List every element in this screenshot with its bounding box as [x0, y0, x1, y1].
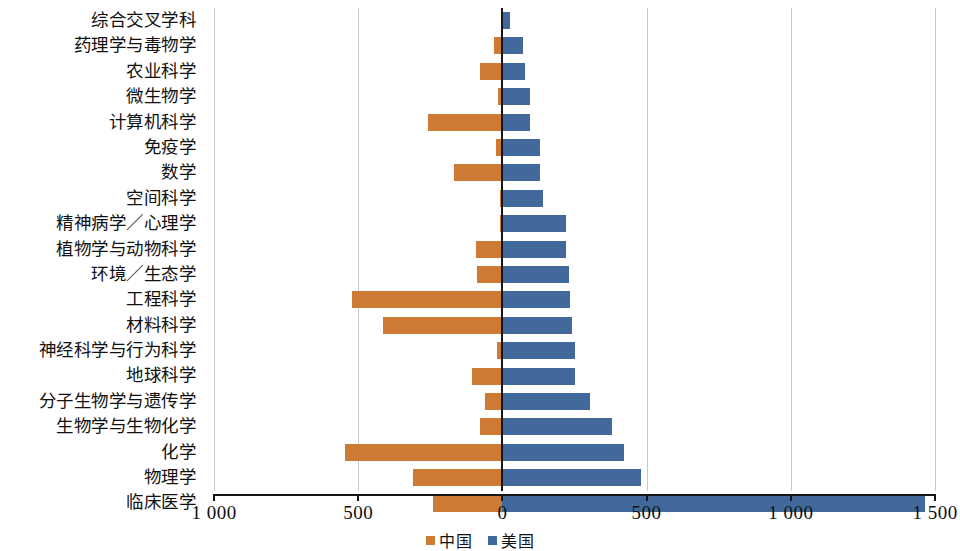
bar-china — [383, 317, 503, 334]
category-label: 空间科学 — [0, 186, 196, 211]
bar-row — [214, 338, 935, 363]
bar-row — [214, 262, 935, 287]
bar-usa — [502, 291, 569, 308]
bar-china — [433, 495, 502, 512]
bar-row — [214, 59, 935, 84]
category-label: 精神病学／心理学 — [0, 211, 196, 236]
category-label: 神经科学与行为科学 — [0, 338, 196, 363]
bar-usa — [502, 368, 575, 385]
legend-swatch-icon — [488, 536, 497, 545]
plot-area — [214, 8, 935, 491]
category-label-column: 综合交叉学科药理学与毒物学农业科学微生物学计算机科学免疫学数学空间科学精神病学／… — [0, 8, 196, 516]
bar-row — [214, 186, 935, 211]
bar-china — [485, 393, 502, 410]
bar-china — [472, 368, 502, 385]
bar-china — [480, 63, 502, 80]
bar-usa — [502, 88, 529, 105]
category-label: 地球科学 — [0, 363, 196, 388]
bar-usa — [502, 164, 539, 181]
x-axis-tick-label: 0 — [497, 502, 507, 524]
bar-row — [214, 211, 935, 236]
x-axis-tick-label: 1 500 — [912, 502, 957, 524]
bar-china — [428, 114, 502, 131]
x-axis-tick — [790, 494, 792, 501]
bar-row — [214, 110, 935, 135]
bar-usa — [502, 317, 571, 334]
bar-china — [345, 444, 502, 461]
gridline — [935, 8, 936, 491]
bar-china — [352, 291, 502, 308]
bar-row — [214, 440, 935, 465]
chart-legend: 中国美国 — [0, 528, 960, 551]
category-label: 综合交叉学科 — [0, 8, 196, 33]
bar-usa — [502, 139, 539, 156]
x-axis-line — [214, 494, 935, 496]
x-axis-tick-label: 500 — [343, 502, 373, 524]
bar-row — [214, 33, 935, 58]
bar-row — [214, 465, 935, 490]
legend-item[interactable]: 中国 — [426, 528, 472, 551]
bar-usa — [502, 418, 612, 435]
bar-row — [214, 389, 935, 414]
category-label: 物理学 — [0, 465, 196, 490]
bar-usa — [502, 469, 641, 486]
bar-row — [214, 313, 935, 338]
x-axis-tick — [646, 494, 648, 501]
x-axis-tick-label: 1 000 — [768, 502, 813, 524]
category-label: 工程科学 — [0, 287, 196, 312]
bar-usa — [502, 393, 590, 410]
category-label: 材料科学 — [0, 313, 196, 338]
bar-china — [477, 266, 502, 283]
bar-usa — [502, 495, 925, 512]
bar-row — [214, 414, 935, 439]
bidirectional-bar-chart: 综合交叉学科药理学与毒物学农业科学微生物学计算机科学免疫学数学空间科学精神病学／… — [0, 0, 960, 551]
bar-usa — [502, 63, 524, 80]
bar-row — [214, 84, 935, 109]
bar-usa — [502, 241, 565, 258]
bar-china — [454, 164, 503, 181]
bar-row — [214, 364, 935, 389]
category-label: 药理学与毒物学 — [0, 33, 196, 58]
legend-label: 美国 — [501, 528, 534, 551]
bar-usa — [502, 12, 510, 29]
category-label: 农业科学 — [0, 59, 196, 84]
bar-usa — [502, 444, 624, 461]
x-axis-tick — [934, 494, 936, 501]
category-label: 计算机科学 — [0, 110, 196, 135]
category-label: 微生物学 — [0, 84, 196, 109]
x-axis-tick-label: 1 000 — [191, 502, 236, 524]
bar-china — [413, 469, 502, 486]
bar-usa — [502, 266, 568, 283]
bar-row — [214, 287, 935, 312]
category-label: 数学 — [0, 160, 196, 185]
category-label: 临床医学 — [0, 490, 196, 515]
legend-label: 中国 — [439, 528, 472, 551]
bar-china — [480, 418, 502, 435]
legend-swatch-icon — [426, 536, 435, 545]
bar-usa — [502, 37, 523, 54]
bar-usa — [502, 215, 565, 232]
bar-row — [214, 237, 935, 262]
legend-item[interactable]: 美国 — [488, 528, 534, 551]
category-label: 生物学与生物化学 — [0, 414, 196, 439]
bar-row — [214, 135, 935, 160]
category-label: 免疫学 — [0, 135, 196, 160]
bar-usa — [502, 114, 529, 131]
bar-usa — [502, 190, 542, 207]
category-label: 分子生物学与遗传学 — [0, 389, 196, 414]
bar-row — [214, 160, 935, 185]
zero-axis-line — [501, 8, 503, 491]
bar-usa — [502, 342, 575, 359]
x-axis-tick — [213, 494, 215, 501]
category-label: 环境／生态学 — [0, 262, 196, 287]
bar-china — [476, 241, 503, 258]
x-axis-tick — [501, 494, 503, 501]
category-label: 化学 — [0, 440, 196, 465]
category-label: 植物学与动物科学 — [0, 237, 196, 262]
x-axis-tick — [357, 494, 359, 501]
x-axis-tick-label: 500 — [632, 502, 662, 524]
bar-row — [214, 8, 935, 33]
